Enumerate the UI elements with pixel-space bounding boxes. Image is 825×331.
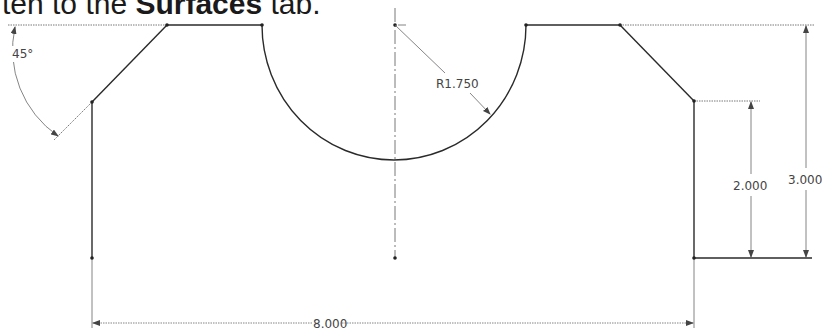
side-height-label[interactable]: 2.000	[733, 179, 767, 193]
angle-dimension[interactable]: 45°	[10, 27, 58, 136]
overall-height-dimension[interactable]: 3.000	[788, 26, 822, 257]
chamfer-extension-line	[54, 102, 92, 140]
sketch-profile[interactable]	[92, 25, 812, 258]
angle-dimension-label[interactable]: 45°	[12, 47, 33, 61]
overall-width-label[interactable]: 8.000	[313, 317, 347, 331]
angle-dimension-arc	[13, 27, 58, 136]
overall-height-label[interactable]: 3.000	[788, 173, 822, 187]
radius-dimension[interactable]: R1.750	[395, 25, 490, 114]
sketch-points	[90, 23, 696, 260]
semicircle-arc[interactable]	[262, 25, 526, 160]
right-chamfer-edge[interactable]	[620, 25, 694, 101]
radius-leader-upper	[395, 25, 445, 73]
side-height-dimension[interactable]: 2.000	[733, 102, 767, 257]
radius-dimension-label[interactable]: R1.750	[436, 77, 479, 91]
radius-leader-lower	[470, 93, 490, 114]
sketch-drawing: 45° R1.750 3.000 2.000 8.000	[0, 0, 825, 331]
overall-width-dimension[interactable]: 8.000	[93, 317, 693, 331]
left-chamfer-edge[interactable]	[92, 25, 167, 102]
